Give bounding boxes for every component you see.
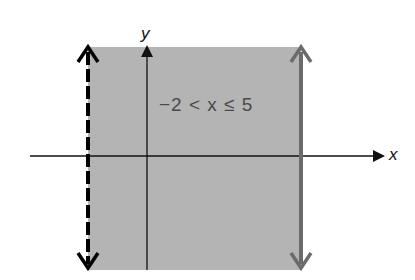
x-axis-label: x	[389, 145, 398, 165]
inequality-label: −2 < x ≤ 5	[159, 94, 253, 116]
shaded-region	[88, 47, 301, 270]
y-axis-label: y	[141, 24, 150, 44]
inequality-graph	[0, 0, 415, 280]
x-axis-arrow-icon	[373, 150, 385, 162]
